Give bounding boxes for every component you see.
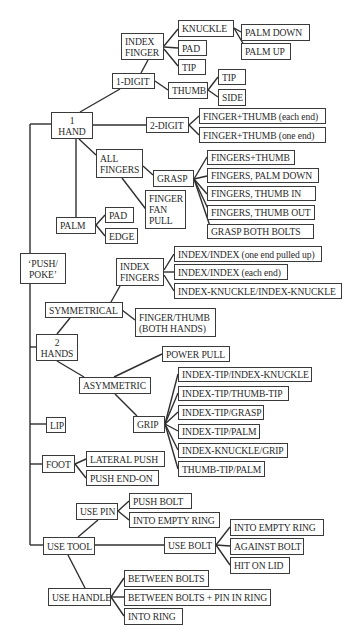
node-palm-pad: PAD — [105, 207, 134, 223]
connector-line — [68, 555, 85, 588]
node-g-fingers-thumb: FINGERS+THUMB — [207, 150, 295, 165]
node-it-palm: INDEX-TIP/PALM — [178, 424, 260, 439]
connector-line — [111, 578, 124, 597]
connector-line — [143, 166, 153, 175]
connector-line — [194, 157, 207, 179]
node-g-thumb-out: FINGERS, THUMB OUT — [207, 205, 315, 220]
connector-line — [57, 318, 70, 334]
node-h-between-bolts: BETWEEN BOLTS — [124, 570, 209, 587]
node-one-hand: 1 HAND — [51, 112, 93, 139]
node-it-ik: INDEX-TIP/INDEX-KNUCKLE — [178, 367, 312, 382]
node-palm-edge: EDGE — [105, 228, 138, 244]
node-grip: GRIP — [133, 416, 165, 433]
node-g-palm-down: FINGERS, PALM DOWN — [207, 168, 319, 183]
node-pin-into-empty-ring: INTO EMPTY RING — [129, 512, 220, 528]
connector-line — [75, 459, 86, 464]
node-ik-ik: INDEX-KNUCKLE/INDEX-KNUCKLE — [174, 283, 342, 299]
node-ft-one-end: FINGER+THUMB (one end) — [199, 127, 326, 143]
node-finger-fan-pull: FINGER FAN PULL — [145, 190, 186, 229]
connector-line — [111, 286, 120, 302]
connector-line — [164, 47, 178, 48]
node-palm: PALM — [56, 217, 96, 234]
node-lateral-push: LATERAL PUSH — [86, 451, 165, 467]
connector-line — [216, 545, 230, 546]
node-two-digit: 2-DIGIT — [146, 117, 189, 133]
connector-line — [80, 89, 120, 112]
connector-line — [216, 527, 230, 545]
node-lip: LIP — [46, 417, 66, 433]
push-poke-taxonomy-diagram: ‘PUSH/ POKE’1 HAND1-DIGITINDEX FINGERKNU… — [0, 0, 361, 635]
connector-line — [216, 545, 230, 565]
node-if-pad: PAD — [178, 40, 207, 56]
connector-line — [164, 254, 174, 270]
connector-line — [118, 501, 129, 511]
connector-line — [164, 49, 178, 66]
node-g-both-bolts: GRASP BOTH BOLTS — [207, 224, 314, 239]
node-thumb: THUMB — [168, 82, 208, 99]
connector-line — [208, 77, 218, 90]
node-symmetrical: SYMMETRICAL — [45, 302, 123, 318]
node-palm-down: PALM DOWN — [241, 24, 310, 41]
connector-line — [114, 354, 162, 377]
node-palm-up: PALM UP — [241, 43, 291, 60]
node-foot: FOOT — [42, 455, 75, 473]
connector-line — [141, 60, 148, 73]
node-use-tool: USE TOOL — [43, 537, 95, 555]
connector-line — [164, 275, 174, 291]
node-index-finger: INDEX FINGER — [121, 33, 164, 60]
node-index-fingers: INDEX FINGERS — [116, 258, 164, 286]
node-use-handle: USE HANDLE — [48, 588, 111, 606]
node-ft-each-end: FINGER+THUMB (each end) — [199, 108, 326, 124]
connector-line — [75, 464, 86, 478]
connector-line — [79, 139, 96, 155]
connector-line — [111, 597, 124, 616]
node-thumb-side: SIDE — [218, 89, 246, 106]
node-grasp: GRASP — [153, 170, 194, 187]
node-one-digit: 1-DIGIT — [112, 73, 155, 89]
node-two-hands: 2 HANDS — [36, 334, 78, 361]
node-tt-palm: THUMB-TIP/PALM — [178, 461, 265, 477]
connector-line — [155, 81, 168, 90]
connector-line — [189, 125, 199, 135]
node-h-between-bolts-pin: BETWEEN BOLTS + PIN IN RING — [124, 589, 271, 606]
connector-line — [208, 90, 218, 97]
connector-line — [96, 225, 105, 236]
node-all-fingers: ALL FINGERS — [96, 149, 143, 178]
node-asymmetric: ASYMMETRIC — [79, 377, 151, 394]
node-bolt-into-empty-ring: INTO EMPTY RING — [230, 519, 324, 536]
connector-line — [118, 511, 129, 520]
connector-line — [122, 310, 135, 320]
node-bolt-against-bolt: AGAINST BOLT — [230, 538, 304, 555]
node-push-end-on: PUSH END-ON — [86, 470, 159, 486]
node-use-pin: USE PIN — [76, 503, 118, 520]
node-push-poke: ‘PUSH/ POKE’ — [20, 253, 66, 284]
node-if-tip: TIP — [178, 59, 206, 75]
node-ii-pulled-up: INDEX/INDEX (one end pulled up) — [174, 246, 322, 262]
node-h-into-ring: INTO RING — [124, 608, 183, 625]
node-pin-push-bolt: PUSH BOLT — [129, 493, 192, 509]
connector-line — [164, 29, 178, 46]
node-use-bolt: USE BOLT — [164, 537, 216, 554]
node-ii-each-end: INDEX/INDEX (each end) — [174, 264, 288, 280]
node-it-grasp: INDEX-TIP/GRASP — [178, 405, 264, 420]
connector-line — [115, 394, 137, 416]
node-finger-thumb-both: FINGER/THUMB (BOTH HANDS) — [135, 308, 216, 337]
node-bolt-hit-on-lid: HIT ON LID — [230, 557, 290, 574]
node-thumb-tip: TIP — [218, 69, 246, 85]
node-ik-grip: INDEX-KNUCKLE/GRIP — [178, 443, 288, 458]
node-if-knuckle: KNUCKLE — [178, 20, 234, 37]
node-it-tt: INDEX-TIP/THUMB-TIP — [178, 386, 289, 401]
node-g-thumb-in: FINGERS, THUMB IN — [207, 186, 316, 201]
node-power-pull: POWER PULL — [162, 346, 230, 362]
connector-line — [96, 215, 105, 225]
connector-line — [78, 520, 98, 537]
connector-line — [189, 116, 199, 125]
connector-line — [57, 361, 84, 377]
